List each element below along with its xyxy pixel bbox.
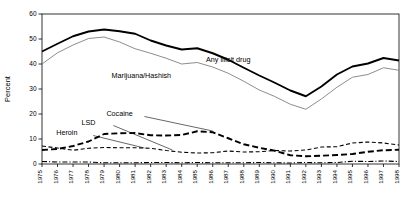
series-annotation-label: Cocaine xyxy=(106,109,132,118)
y-axis-tick-label: 60 xyxy=(29,10,37,17)
annotation-leader-line xyxy=(93,136,144,149)
series-annotation-label: Heroin xyxy=(56,128,77,137)
y-axis-tick-label: 20 xyxy=(29,110,37,117)
x-axis-tick-label: 1982 xyxy=(145,169,152,183)
series-annotation-label: LSD xyxy=(82,118,96,127)
series-annotation-label: Any illicit drug xyxy=(206,55,250,64)
x-axis-tick-label: 1987 xyxy=(222,169,229,183)
y-axis-tick-label: 40 xyxy=(29,60,37,67)
x-axis-tick-label: 1978 xyxy=(83,169,90,183)
series-line-lsd xyxy=(42,142,399,153)
x-axis-tick-label: 1998 xyxy=(393,169,400,183)
x-axis-tick-label: 1984 xyxy=(176,169,183,183)
x-axis-tick-label: 1991 xyxy=(284,169,291,183)
series-line-marijuana-hashish xyxy=(42,37,399,109)
chart-container: 0102030405060Percent19751976197719781979… xyxy=(0,0,407,216)
x-axis-tick-label: 1976 xyxy=(52,169,59,183)
y-axis-tick-label: 10 xyxy=(29,135,37,142)
x-axis-tick-label: 1994 xyxy=(331,169,338,183)
series-line-heroin xyxy=(42,161,399,163)
x-axis-tick-label: 1975 xyxy=(36,169,43,183)
annotation-leader-line xyxy=(144,117,212,132)
x-axis-tick-label: 1996 xyxy=(362,169,369,183)
x-axis-tick-label: 1997 xyxy=(377,169,384,183)
y-axis-tick-label: 50 xyxy=(29,35,37,42)
x-axis-tick-label: 1985 xyxy=(191,169,198,183)
x-axis-tick-label: 1990 xyxy=(269,169,276,183)
y-axis-title: Percent xyxy=(3,75,12,102)
x-axis-tick-label: 1992 xyxy=(300,169,307,183)
x-axis-tick-label: 1983 xyxy=(160,169,167,183)
x-axis-tick-label: 1986 xyxy=(207,169,214,183)
line-chart: 0102030405060Percent19751976197719781979… xyxy=(0,0,407,216)
x-axis-tick-label: 1981 xyxy=(129,169,136,183)
x-axis-tick-label: 1993 xyxy=(315,169,322,183)
x-axis-tick-label: 1977 xyxy=(67,169,74,183)
plot-frame xyxy=(42,14,399,164)
x-axis-tick-label: 1989 xyxy=(253,169,260,183)
x-axis-tick-label: 1980 xyxy=(114,169,121,183)
y-axis-tick-label: 0 xyxy=(33,160,37,167)
annotation-leader-line xyxy=(113,126,172,151)
x-axis-tick-label: 1979 xyxy=(98,169,105,183)
x-axis-tick-label: 1995 xyxy=(346,169,353,183)
y-axis-tick-label: 30 xyxy=(29,85,37,92)
series-line-cocaine xyxy=(42,131,399,156)
x-axis-tick-label: 1988 xyxy=(238,169,245,183)
series-annotation-label: Marijuana/Hashish xyxy=(112,71,172,80)
